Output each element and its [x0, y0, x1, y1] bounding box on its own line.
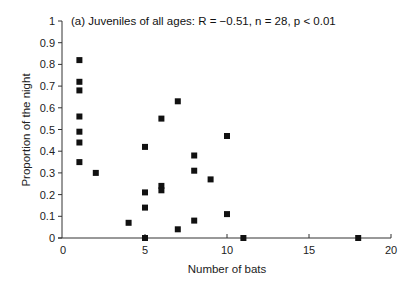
- y-axis: 00.10.20.30.40.50.60.70.80.91: [40, 15, 62, 244]
- data-point: [142, 205, 148, 211]
- y-tick-label: 0.8: [40, 58, 55, 70]
- x-tick-label: 15: [303, 244, 315, 256]
- chart-title: (a) Juveniles of all ages: R = −0.51, n …: [71, 15, 336, 27]
- y-tick-label: 0.4: [40, 145, 55, 157]
- data-point: [191, 168, 197, 174]
- y-tick-label: 1: [49, 15, 55, 27]
- y-tick-label: 0: [49, 232, 55, 244]
- data-point: [76, 159, 82, 165]
- data-point: [76, 57, 82, 63]
- y-tick-label: 0.1: [40, 210, 55, 222]
- data-point: [76, 79, 82, 85]
- data-point: [224, 133, 230, 139]
- data-point: [76, 114, 82, 120]
- data-point: [175, 226, 181, 232]
- data-points: [76, 57, 361, 241]
- data-point: [191, 218, 197, 224]
- data-point: [76, 129, 82, 135]
- data-point: [191, 153, 197, 159]
- y-tick-label: 0.2: [40, 189, 55, 201]
- data-point: [126, 220, 132, 226]
- x-axis: 05101520: [58, 234, 397, 256]
- data-point: [76, 87, 82, 93]
- y-tick-label: 0.6: [40, 102, 55, 114]
- y-axis-title: Proportion of the night: [20, 73, 32, 187]
- data-point: [158, 187, 164, 193]
- x-tick-label: 20: [385, 244, 397, 256]
- x-tick-label: 10: [221, 244, 233, 256]
- data-point: [355, 235, 361, 241]
- x-tick-label: 5: [142, 244, 148, 256]
- y-tick-label: 0.5: [40, 124, 55, 136]
- data-point: [175, 98, 181, 104]
- data-point: [208, 176, 214, 182]
- data-point: [93, 170, 99, 176]
- y-tick-label: 0.3: [40, 167, 55, 179]
- data-point: [158, 116, 164, 122]
- data-point: [240, 235, 246, 241]
- y-tick-label: 0.7: [40, 80, 55, 92]
- data-point: [142, 235, 148, 241]
- data-point: [224, 211, 230, 217]
- data-point: [142, 144, 148, 150]
- x-axis-title: Number of bats: [188, 263, 267, 275]
- data-point: [142, 189, 148, 195]
- y-tick-label: 0.9: [40, 37, 55, 49]
- x-tick-label: 0: [60, 244, 66, 256]
- scatter-chart: 00.10.20.30.40.50.60.70.80.91 05101520 (…: [0, 0, 417, 288]
- data-point: [76, 140, 82, 146]
